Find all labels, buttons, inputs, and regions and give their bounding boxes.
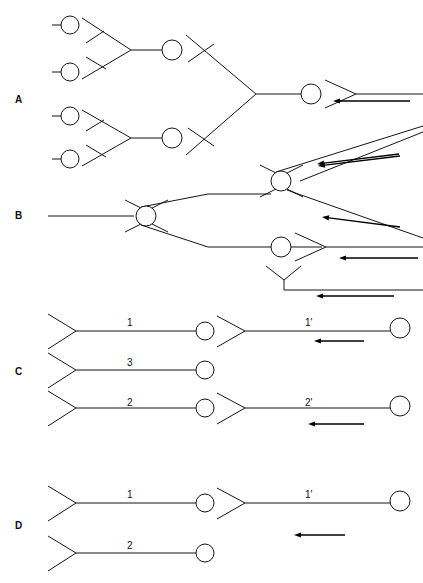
panel-c-row1-right-fork: [217, 316, 390, 347]
segment-label-c2p: 2': [305, 398, 312, 408]
segment-label-c1p: 1': [305, 318, 312, 328]
segment-label-c3: 3: [127, 358, 133, 368]
replication-bubble: [196, 544, 214, 562]
panel-d-group: [48, 486, 390, 571]
panel-b-group: [48, 126, 423, 290]
panel-a-fork-upper-2: [82, 50, 131, 79]
panel-d-row2-fork: [48, 536, 76, 571]
arrow-shaft: [324, 154, 399, 163]
replication-fork-figure: ABCD 11'322'11'2: [0, 0, 423, 583]
direction-arrow: [322, 215, 400, 227]
replication-bubble: [162, 128, 182, 148]
replication-bubble: [301, 84, 321, 104]
panel-label-c: C: [15, 367, 22, 377]
panel-c-row3-fork: [48, 353, 76, 388]
panel-a-fork-mid-upper: [186, 35, 256, 94]
replication-bubble: [61, 16, 79, 34]
panel-b-upper-strand-out: [276, 126, 423, 172]
panel-b-lower-tail-fork: [266, 266, 423, 290]
segment-label-d1: 1: [127, 490, 133, 500]
replication-bubble: [196, 322, 214, 340]
panel-a-fork-lower-1: [82, 110, 131, 138]
arrow-head: [339, 255, 346, 260]
panel-a-fork-mid-lower: [186, 94, 256, 155]
arrow-head: [308, 421, 315, 426]
replication-bubble: [162, 40, 182, 60]
segment-label-c2: 2: [127, 398, 133, 408]
arrow-head: [294, 532, 301, 537]
direction-arrow: [339, 255, 418, 260]
segment-label-d1p: 1': [305, 490, 312, 500]
replication-bubble: [196, 494, 214, 512]
panel-d-row1-fork: [48, 486, 76, 521]
direction-arrow: [308, 421, 364, 426]
panel-c-row2-right-fork: [217, 393, 390, 424]
panel-label-d: D: [15, 521, 22, 531]
replication-bubble: [390, 491, 410, 511]
panel-b-upper-strand-down: [287, 190, 423, 238]
segment-label-c1: 1: [127, 318, 133, 328]
arrow-head: [316, 293, 323, 298]
replication-bubble: [196, 399, 214, 417]
panel-label-a: A: [15, 95, 22, 105]
arrow-head: [322, 215, 329, 220]
bubble-layer: [61, 16, 410, 562]
arrow-head: [314, 338, 321, 343]
arrow-shaft: [329, 218, 400, 227]
replication-bubble: [271, 237, 291, 257]
direction-arrow: [314, 338, 364, 343]
panel-a-descending-strand: [300, 132, 423, 181]
panel-c-group: [48, 314, 390, 426]
replication-bubble: [390, 318, 410, 338]
panel-a-group: [52, 18, 423, 181]
panel-a-terminal-fork: [325, 80, 423, 108]
arrow-shaft: [325, 156, 400, 165]
panel-a-fork-upper-1: [82, 18, 131, 50]
replication-bubble: [390, 396, 410, 416]
replication-bubble: [61, 63, 79, 81]
panel-c-row2-fork: [48, 391, 76, 426]
replication-bubble: [61, 107, 79, 125]
panel-d-row1-right-fork: [217, 488, 390, 519]
replication-bubble: [61, 150, 79, 168]
panel-b-loop-upper: [141, 194, 271, 207]
panel-c-row1-fork: [48, 314, 76, 349]
replication-bubble: [271, 171, 291, 191]
replication-bubble: [136, 206, 156, 226]
direction-arrow: [294, 532, 345, 537]
direction-arrow: [316, 293, 394, 298]
segment-label-d2: 2: [127, 541, 133, 551]
diagram-canvas: [0, 0, 423, 583]
panel-a-terminal-tails: [52, 25, 61, 159]
panel-label-b: B: [15, 211, 22, 221]
replication-bubble: [196, 361, 214, 379]
panel-a-fork-lower-2: [82, 138, 131, 166]
